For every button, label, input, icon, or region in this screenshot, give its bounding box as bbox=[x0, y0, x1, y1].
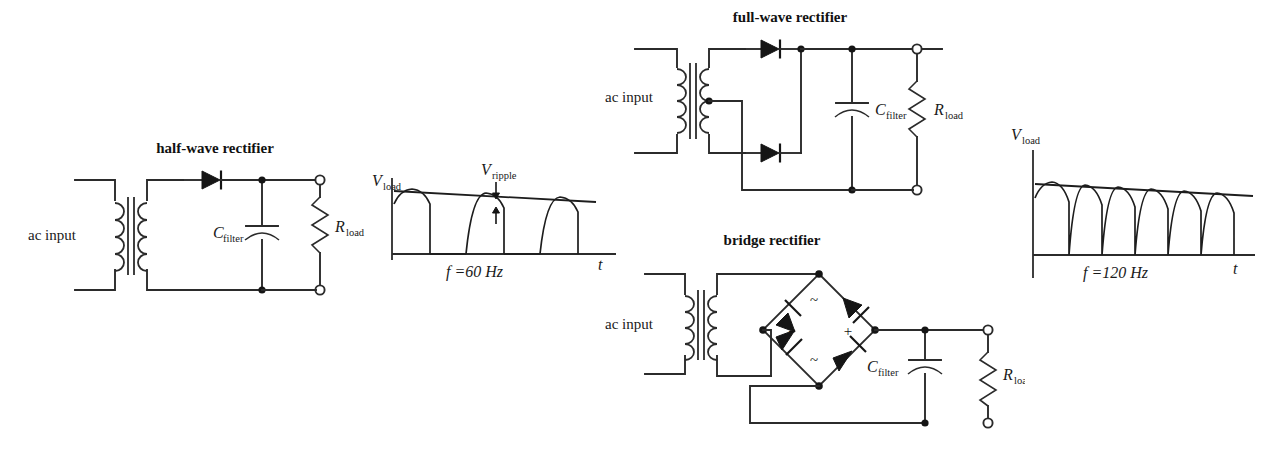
bridge-output-terminal-bottom bbox=[983, 418, 992, 427]
full-wave-title: full-wave rectifier bbox=[733, 9, 848, 25]
bridge-node-label-top: ~ bbox=[810, 292, 818, 308]
full-wave-node-cap-top bbox=[848, 45, 855, 52]
full-wave-waveform-ylabel-sub: load bbox=[1022, 135, 1041, 146]
half-wave-title: half-wave rectifier bbox=[156, 140, 274, 156]
half-wave-transformer-primary bbox=[75, 180, 124, 290]
half-wave-capacitor: C filter bbox=[213, 180, 279, 290]
bridge-capacitor: C filter bbox=[867, 330, 942, 423]
bridge-node-top bbox=[815, 270, 823, 278]
bridge-node-label-right: + bbox=[844, 323, 852, 339]
full-wave-rectifier-figure: full-wave rectifier ac input bbox=[605, 5, 995, 215]
half-wave-load-resistor: R load bbox=[312, 180, 365, 290]
bridge-rectifier-figure: bridge rectifier ac input bbox=[605, 228, 1025, 443]
full-wave-frequency-label: f =120 Hz bbox=[1083, 264, 1149, 282]
full-wave-diode-upper bbox=[745, 40, 801, 59]
full-wave-capacitor: C filter bbox=[835, 49, 907, 190]
rectifier-diagram-page: half-wave rectifier ac input bbox=[0, 0, 1287, 450]
full-wave-waveform-envelope bbox=[1035, 184, 1253, 196]
bridge-output-terminal-top bbox=[983, 325, 992, 334]
bridge-capacitor-label: C bbox=[867, 358, 878, 375]
bridge-ac-input-label: ac input bbox=[605, 316, 654, 332]
full-wave-capacitor-sub: filter bbox=[886, 110, 907, 121]
half-wave-waveform-figure: V load V ripple f =60 Hz t bbox=[368, 160, 633, 285]
full-wave-diode-lower bbox=[745, 144, 801, 163]
full-wave-resistor-sub: load bbox=[945, 110, 964, 121]
half-wave-resistor-sub: load bbox=[346, 227, 365, 238]
half-wave-ac-input-label: ac input bbox=[28, 227, 77, 243]
full-wave-capacitor-label: C bbox=[875, 101, 886, 118]
bridge-capacitor-sub: filter bbox=[878, 367, 899, 378]
bridge-node-label-left: - bbox=[789, 322, 794, 338]
bridge-node-cap-bottom bbox=[921, 419, 928, 426]
half-wave-frequency-label: f =60 Hz bbox=[446, 263, 504, 281]
half-wave-output-terminal-top bbox=[315, 175, 324, 184]
full-wave-resistor-label: R bbox=[933, 101, 944, 118]
full-wave-ac-input-label: ac input bbox=[605, 89, 654, 105]
half-wave-node-top bbox=[258, 176, 265, 183]
full-wave-load-resistor: R load bbox=[909, 49, 964, 190]
bridge-transformer-core bbox=[698, 290, 704, 360]
half-wave-transformer-core bbox=[128, 197, 134, 275]
ripple-label-sub: ripple bbox=[492, 170, 517, 181]
full-wave-center-tap bbox=[705, 97, 852, 190]
full-wave-waveform-xlabel: t bbox=[1233, 260, 1238, 277]
bridge-transformer-secondary bbox=[708, 274, 819, 376]
bridge-load-resistor: R load bbox=[980, 330, 1025, 423]
half-wave-rectifier-figure: half-wave rectifier ac input bbox=[20, 135, 370, 310]
bridge-return-wire bbox=[750, 386, 925, 423]
half-wave-diode bbox=[183, 171, 262, 190]
half-wave-resistor-label: R bbox=[334, 218, 345, 235]
full-wave-transformer-core bbox=[690, 63, 696, 139]
bridge-node-label-bottom: ~ bbox=[810, 352, 818, 368]
half-wave-capacitor-sub: filter bbox=[223, 233, 244, 244]
bridge-resistor-label: R bbox=[1002, 366, 1013, 383]
bridge-diamond: ~ ~ - + bbox=[763, 274, 875, 386]
bridge-resistor-sub: load bbox=[1014, 375, 1025, 386]
full-wave-waveform-figure: V load f =120 Hz t bbox=[1005, 110, 1280, 290]
half-wave-waveform-xlabel: t bbox=[598, 256, 603, 273]
full-wave-output-terminal-top bbox=[912, 44, 921, 53]
bridge-node-cap-top bbox=[921, 326, 928, 333]
bridge-title: bridge rectifier bbox=[724, 232, 821, 248]
